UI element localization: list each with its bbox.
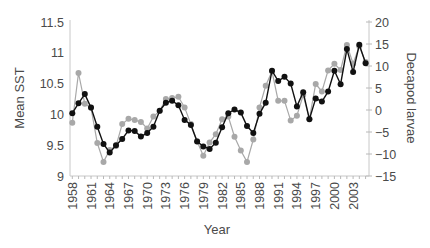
data-point-marker [300, 89, 306, 95]
data-point-marker [200, 153, 206, 159]
data-point-marker [344, 46, 350, 52]
data-point-marker [288, 81, 294, 87]
x-tick-label: 1988 [253, 182, 267, 210]
data-point-marker [319, 99, 325, 105]
data-point-marker [182, 117, 188, 123]
data-point-marker [200, 143, 206, 149]
x-tick-label: 1970 [141, 182, 155, 210]
data-point-marker [144, 130, 150, 136]
data-point-marker [69, 120, 75, 126]
data-point-marker [119, 121, 125, 127]
data-point-marker [138, 119, 144, 125]
data-point-marker [363, 60, 369, 66]
data-point-marker [94, 124, 100, 130]
data-point-marker [76, 100, 82, 106]
right-y-tick-label: 5 [375, 82, 382, 96]
data-point-marker [194, 139, 200, 145]
data-point-marker [282, 98, 288, 104]
x-tick-label: 1985 [234, 182, 248, 210]
data-point-marker [338, 81, 344, 87]
left-y-tick-label: 9 [57, 170, 64, 184]
left-y-tick-label: 11 [51, 46, 64, 60]
data-point-marker [157, 108, 163, 114]
x-tick-label: 1991 [272, 182, 286, 210]
data-point-marker [319, 89, 325, 95]
left-y-tick-label: 10.5 [40, 77, 64, 91]
data-point-marker [107, 150, 113, 156]
data-point-marker [238, 110, 244, 116]
right-y-tick-label: 15 [375, 38, 389, 52]
data-point-marker [88, 105, 94, 111]
data-point-marker [169, 98, 175, 104]
data-point-marker [175, 102, 181, 108]
data-point-marker [207, 140, 213, 146]
data-point-marker [76, 70, 82, 76]
data-point-marker [269, 68, 275, 74]
x-tick-label: 2000 [328, 182, 342, 210]
data-point-marker [313, 81, 319, 87]
x-tick-label: 1967 [122, 182, 136, 210]
data-point-marker [126, 116, 132, 122]
data-point-marker [244, 159, 250, 165]
x-tick-label: 1976 [178, 182, 192, 210]
left-y-tick-label: 10 [50, 108, 64, 122]
x-tick-label: 1964 [103, 182, 117, 210]
data-point-marker [238, 148, 244, 154]
data-point-marker [294, 103, 300, 109]
x-tick-label: 2003 [347, 182, 361, 210]
data-point-marker [232, 107, 238, 113]
data-point-marker [282, 74, 288, 80]
data-point-marker [250, 137, 256, 143]
left-y-tick-label: 9.5 [47, 139, 64, 153]
x-tick-label: 1994 [290, 182, 304, 210]
left-y-tick-label: 11.5 [41, 16, 64, 30]
data-point-marker [356, 42, 362, 48]
data-point-marker [232, 134, 238, 140]
data-point-marker [250, 130, 256, 136]
data-point-marker [82, 101, 88, 107]
data-point-marker [350, 69, 356, 75]
left-y-axis-title: Mean SST [12, 67, 27, 128]
data-point-marker [101, 159, 107, 165]
data-point-marker [306, 116, 312, 122]
data-point-marker [138, 134, 144, 140]
data-point-marker [132, 128, 138, 134]
data-point-marker [69, 110, 75, 116]
data-point-marker [275, 98, 281, 104]
data-point-marker [94, 140, 100, 146]
data-point-marker [175, 94, 181, 100]
data-point-marker [225, 110, 231, 116]
right-y-tick-label: −10 [375, 148, 396, 162]
right-y-tick-label: 20 [375, 16, 389, 30]
data-point-marker [325, 89, 331, 95]
data-point-marker [207, 146, 213, 152]
data-point-marker [257, 111, 263, 117]
series-mean-sst [69, 42, 368, 156]
right-y-tick-label: −5 [375, 126, 389, 140]
data-point-marker [213, 140, 219, 146]
data-point-marker [113, 142, 119, 148]
x-tick-label: 1979 [197, 182, 211, 210]
data-point-marker [182, 104, 188, 110]
data-point-marker [188, 122, 194, 128]
data-point-marker [82, 91, 88, 97]
data-point-marker [126, 127, 132, 133]
x-tick-label: 1982 [216, 182, 230, 210]
data-point-marker [150, 124, 156, 130]
data-point-marker [150, 114, 156, 120]
data-point-marker [331, 68, 337, 74]
left-y-axis: 99.51010.51111.5 [40, 16, 70, 184]
data-point-marker [219, 124, 225, 130]
x-axis-title: Year [204, 222, 231, 237]
plot-area [69, 42, 368, 165]
data-point-marker [313, 95, 319, 101]
data-point-marker [101, 141, 107, 147]
data-point-marker [263, 83, 269, 89]
data-point-marker [263, 100, 269, 106]
right-y-tick-label: 10 [375, 60, 389, 74]
data-point-marker [132, 117, 138, 123]
right-y-tick-label: 0 [375, 104, 382, 118]
right-y-axis-title: Decapod larvae [404, 52, 419, 143]
data-point-marker [275, 78, 281, 84]
right-y-axis: −15−10−505101520 [366, 16, 396, 184]
